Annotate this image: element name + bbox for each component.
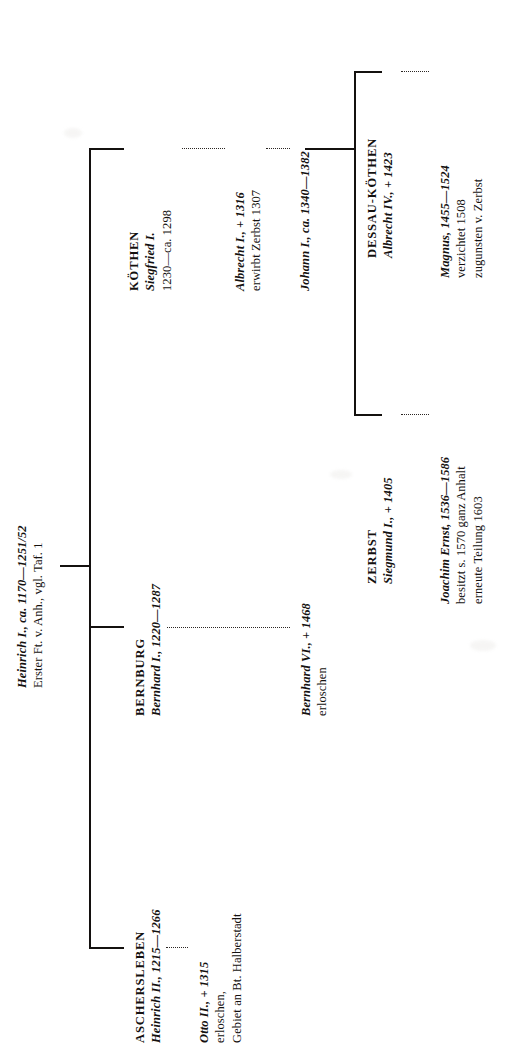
bernburg-successor: Bernhard VI., + 1468 erloschen <box>298 603 331 716</box>
zerbst-successor-line-1: Joachim Ernst, 1536—1586 <box>437 457 453 604</box>
koethen-gap-dots-1 <box>182 148 225 149</box>
root-line-2: Erster Ft. v. Anh., vgl. Taf. 1 <box>30 525 46 688</box>
house-aschersleben: ASCHERSLEBEN Heinrich II., 1215—1266 <box>132 909 165 1043</box>
root-stem <box>60 565 90 567</box>
zerbst-connector <box>354 414 382 416</box>
bernburg-gap-dots <box>167 627 290 628</box>
scan-artifact <box>330 470 352 479</box>
house-dessau-koethen: DESSAU-KÖTHEN Albrecht IV., + 1423 <box>364 138 397 258</box>
aschersleben-successor-line-2: erloschen, <box>212 913 228 1043</box>
dessau-koethen-successor-line-2: verzichtet 1508 <box>453 165 469 278</box>
koethen-generation-2-line-1: Albrecht I., + 1316 <box>232 190 248 291</box>
bernburg-successor-line-1: Bernhard VI., + 1468 <box>298 603 314 716</box>
bernburg-successor-line-2: erloschen <box>314 603 330 716</box>
house-koethen-holder-line-2: 1230—ca. 1298 <box>159 210 175 291</box>
zerbst-successor-line-2: besitzt s. 1570 ganz Anhalt <box>453 457 469 604</box>
house-bernburg-holder: Bernhard I., 1220—1287 <box>148 584 164 716</box>
root-line-1: Heinrich I., ca. 1170—1251/52 <box>14 525 30 688</box>
koethen-generation-3-line-1: Johann I., ca. 1340—1382 <box>297 151 313 291</box>
zerbst-successor-line-3: erneute Teilung 1603 <box>470 457 486 604</box>
scan-artifact <box>64 128 82 138</box>
aschersleben-successor: Otto II., + 1315 erloschen, Gebiet an Bt… <box>196 913 245 1043</box>
koethen-generation-3: Johann I., ca. 1340—1382 <box>297 151 313 291</box>
aschersleben-successor-line-1: Otto II., + 1315 <box>196 913 212 1043</box>
dessau-koethen-successor-line-3: zugunsten v. Zerbst <box>470 165 486 278</box>
house-dessau-koethen-holder: Albrecht IV., + 1423 <box>380 138 396 258</box>
aschersleben-successor-line-3: Gebiet an Bt. Halberstadt <box>229 913 245 1043</box>
koethen-generation-2-line-2: erwirbt Zerbst 1307 <box>248 190 264 291</box>
root-node: Heinrich I., ca. 1170—1251/52 Erster Ft.… <box>14 525 47 688</box>
scan-artifact <box>470 640 496 651</box>
koethen-connector <box>89 148 124 150</box>
aschersleben-gap-dots <box>166 947 188 948</box>
dessau-koethen-successor: Magnus, 1455—1524 verzichtet 1508 zuguns… <box>437 165 486 278</box>
house-zerbst-holder: Siegmund I., + 1405 <box>380 477 396 584</box>
zerbst-gap-dots <box>401 414 429 415</box>
generation-1-spine <box>89 148 91 948</box>
johann-stem <box>305 148 355 150</box>
house-bernburg-name: BERNBURG <box>132 584 148 716</box>
dessau-koethen-successor-line-1: Magnus, 1455—1524 <box>437 165 453 278</box>
house-zerbst-name: ZERBST <box>364 477 380 584</box>
koethen-generation-2: Albrecht I., + 1316 erwirbt Zerbst 1307 <box>232 190 265 291</box>
house-dessau-koethen-name: DESSAU-KÖTHEN <box>364 138 380 258</box>
zerbst-successor: Joachim Ernst, 1536—1586 besitzt s. 1570… <box>437 457 486 604</box>
dessau-koethen-gap-dots <box>401 71 429 72</box>
house-koethen-holder-line-1: Siegfried I. <box>142 210 158 291</box>
generation-2-spine <box>354 71 356 416</box>
genealogy-chart: Heinrich I., ca. 1170—1251/52 Erster Ft.… <box>0 0 529 1053</box>
house-koethen: KÖTHEN Siegfried I. 1230—ca. 1298 <box>126 210 175 291</box>
koethen-gap-dots-2 <box>266 148 290 149</box>
house-bernburg: BERNBURG Bernhard I., 1220—1287 <box>132 584 165 716</box>
aschersleben-connector <box>89 947 124 949</box>
house-zerbst: ZERBST Siegmund I., + 1405 <box>364 477 397 584</box>
house-aschersleben-holder: Heinrich II., 1215—1266 <box>148 909 164 1043</box>
house-aschersleben-name: ASCHERSLEBEN <box>132 909 148 1043</box>
bernburg-connector <box>89 626 124 628</box>
house-koethen-name: KÖTHEN <box>126 210 142 291</box>
dessau-koethen-connector <box>354 71 382 73</box>
